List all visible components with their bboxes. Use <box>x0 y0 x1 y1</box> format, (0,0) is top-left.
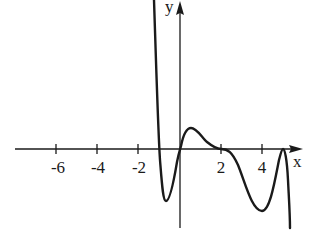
tick-label-neg4: -4 <box>91 158 106 177</box>
y-axis-arrow-icon <box>176 1 184 15</box>
tick-label-neg6: -6 <box>51 158 65 177</box>
function-curve <box>154 0 290 228</box>
tick-label-2: 2 <box>217 158 226 177</box>
tick-label-neg2: -2 <box>132 158 146 177</box>
function-graph: -6 -4 -2 2 4 x y <box>0 0 326 239</box>
tick-label-4: 4 <box>258 158 267 177</box>
x-axis-label: x <box>293 152 302 171</box>
y-axis-label: y <box>165 0 174 16</box>
